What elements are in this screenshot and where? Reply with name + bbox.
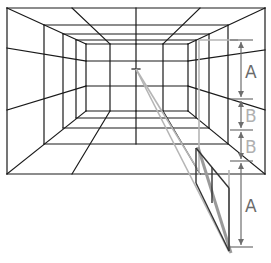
- label-b-upper: B: [245, 106, 257, 126]
- label-a-bottom: A: [245, 196, 257, 216]
- construction-lines: [136, 40, 238, 252]
- label-a-top: A: [245, 62, 257, 82]
- corner-top-right: [188, 8, 265, 44]
- perspective-room-diagram: A B B A: [0, 0, 271, 263]
- corner-bottom-left: [7, 111, 86, 174]
- corner-top-left: [7, 8, 86, 44]
- room-grid: [7, 8, 265, 174]
- door-in-perspective: [196, 147, 231, 253]
- label-b-lower: B: [245, 137, 257, 157]
